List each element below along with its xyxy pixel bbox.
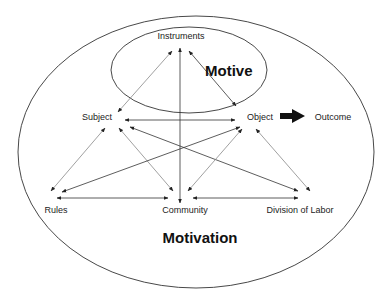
edge-object-division [256,129,310,191]
bold-arrow-icon [280,109,305,123]
edge-subject-rules [51,128,105,191]
node-outcome: Outcome [315,112,352,122]
edge-subject-community [119,128,173,191]
activity-system-diagram: Instruments Motive Subject Object Outcom… [0,0,388,293]
edge-object-rules [62,127,240,192]
node-instruments: Instruments [157,31,205,41]
edge-subject-instruments [118,51,172,112]
node-community: Community [162,205,208,215]
node-object: Object [247,112,274,122]
node-subject: Subject [82,112,113,122]
edge-object-community [188,129,242,191]
node-division-of-labor: Division of Labor [266,205,333,215]
node-rules: Rules [44,205,68,215]
motivation-label: Motivation [163,229,238,246]
motive-label: Motive [205,62,253,79]
